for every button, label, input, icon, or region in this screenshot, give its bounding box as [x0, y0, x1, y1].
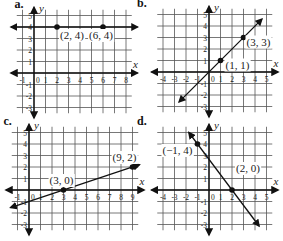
x-tick-label: 3	[62, 193, 66, 202]
y-tick-label: -2	[201, 209, 207, 218]
x-tick-label: 6	[101, 76, 105, 85]
y-tick-label: 4	[203, 22, 207, 31]
y-tick-label: 1	[203, 57, 207, 66]
x-tick-label: 7	[113, 76, 117, 85]
x-tick-label: 0	[211, 193, 215, 202]
panel-letter: b.	[137, 0, 147, 10]
y-tick-label: -1	[201, 198, 207, 207]
x-tick-label: 4	[78, 76, 82, 85]
y-axis-label: y	[33, 119, 39, 131]
x-tick-label: 0	[211, 75, 215, 84]
x-axis-label: x	[272, 175, 278, 187]
y-tick-label: -2	[201, 91, 207, 100]
grid-lines	[157, 127, 272, 231]
plotted-point	[229, 187, 235, 193]
point-label: (2, 0)	[236, 162, 260, 175]
y-tick-label: 5	[23, 129, 27, 138]
x-tick-label: -3	[171, 75, 177, 84]
y-axis-label: y	[213, 1, 219, 13]
y-tick-label: 2	[28, 46, 32, 55]
y-tick-label: -3	[201, 221, 207, 230]
graph-panel-c: yxc.-1012345678954321-1-2-3(3, 0)(9, 2)	[4, 114, 145, 235]
plotted-point	[61, 187, 67, 193]
x-tick-label: 8	[124, 76, 128, 85]
x-tick-label: 4	[253, 75, 257, 84]
x-tick-label: 5	[265, 193, 269, 202]
x-tick-label: 0	[36, 76, 40, 85]
point-label: (6, 4)	[89, 29, 113, 42]
plotted-point	[218, 58, 224, 64]
x-tick-label: -2	[183, 193, 189, 202]
x-tick-label: 1	[219, 193, 223, 202]
y-tick-label: -2	[21, 209, 27, 218]
panel-letter: c.	[4, 114, 12, 128]
y-tick-label: 5	[203, 11, 207, 20]
y-tick-label: -1	[26, 81, 32, 90]
y-tick-label: 2	[203, 163, 207, 172]
x-tick-label: 2	[55, 76, 59, 85]
y-tick-label: -3	[201, 103, 207, 112]
graph-line	[189, 133, 259, 226]
y-tick-label: 4	[23, 140, 27, 149]
x-tick-label: 4	[253, 193, 257, 202]
x-tick-label: 1	[219, 75, 223, 84]
point-label: (3, 0)	[50, 174, 74, 187]
y-tick-label: -2	[26, 92, 32, 101]
x-tick-label: 5	[265, 75, 269, 84]
panel-letter: a.	[15, 0, 24, 11]
panel-letter: d.	[137, 114, 147, 128]
x-axis-label: x	[138, 175, 144, 187]
grid-lines	[12, 127, 139, 231]
y-tick-label: 3	[28, 35, 32, 44]
point-label: (1, 1)	[226, 59, 250, 72]
y-axis-label: y	[213, 119, 219, 131]
y-tick-label: -3	[21, 221, 27, 230]
y-tick-label: 2	[23, 163, 27, 172]
y-tick-label: 3	[23, 152, 27, 161]
graph-panel-b: yxb.-4-3-2-101234554321-1-2-3(1, 1)(3, 3…	[137, 0, 278, 117]
x-tick-label: 3	[67, 76, 71, 85]
x-tick-label: 5	[85, 193, 89, 202]
x-tick-label: 1	[44, 76, 48, 85]
x-tick-label: 7	[108, 193, 112, 202]
x-tick-label: -3	[171, 193, 177, 202]
x-tick-label: 2	[230, 193, 234, 202]
x-tick-label: 2	[230, 75, 234, 84]
x-axis-label: x	[132, 58, 138, 70]
point-label: (−1, 4)	[162, 144, 192, 157]
y-tick-label: 3	[203, 34, 207, 43]
y-tick-label: -3	[26, 104, 32, 113]
x-tick-label: 6	[96, 193, 100, 202]
y-tick-label: 1	[23, 175, 27, 184]
plotted-point	[54, 24, 60, 30]
y-tick-label: -1	[201, 80, 207, 89]
x-tick-label: -2	[183, 75, 189, 84]
graph-panel-a: yxa.-101234567854321-1-2-3(2, 4)(6, 4)	[11, 0, 138, 118]
y-tick-label: 5	[28, 12, 32, 21]
y-axis-label: y	[38, 2, 44, 14]
graph-panel-d: yxd.-4-3-2-101234554321-1-2-3(−1, 4)(2, …	[137, 114, 278, 235]
x-axis-label: x	[272, 57, 278, 69]
x-tick-label: 5	[90, 76, 94, 85]
x-tick-label: 8	[119, 193, 123, 202]
plotted-point	[241, 35, 247, 41]
y-tick-label: 1	[28, 58, 32, 67]
y-tick-label: 5	[203, 129, 207, 138]
x-tick-label: -4	[160, 193, 166, 202]
y-tick-label: 4	[203, 140, 207, 149]
plotted-point	[130, 164, 136, 170]
point-label: (2, 4)	[60, 29, 84, 42]
grid-lines	[157, 9, 272, 113]
point-label: (9, 2)	[113, 151, 137, 164]
x-tick-label: 4	[73, 193, 77, 202]
y-tick-label: 2	[203, 45, 207, 54]
point-label: (3, 3)	[247, 36, 271, 49]
x-tick-label: 3	[242, 193, 246, 202]
plotted-point	[195, 141, 201, 147]
x-tick-label: 3	[242, 75, 246, 84]
x-tick-label: 9	[131, 193, 135, 202]
x-tick-label: -4	[160, 75, 166, 84]
graphs-figure: yxa.-101234567854321-1-2-3(2, 4)(6, 4) y…	[0, 0, 283, 241]
y-tick-label: 1	[203, 175, 207, 184]
